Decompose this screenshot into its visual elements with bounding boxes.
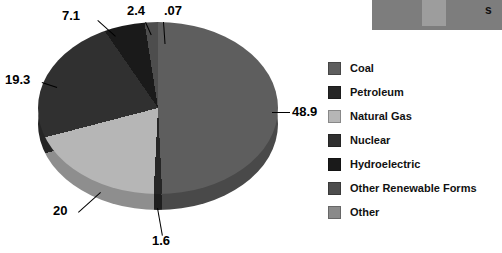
pie-surface (38, 22, 278, 194)
legend-swatch-icon (328, 62, 341, 75)
pie-graphic (38, 22, 278, 222)
legend-swatch-icon (328, 134, 341, 147)
legend-item-other-renewable-forms[interactable]: Other Renewable Forms (328, 176, 502, 200)
legend-swatch-icon (328, 182, 341, 195)
value-label-coal: 48.9 (292, 105, 317, 119)
value-label-petroleum: 1.6 (152, 234, 170, 248)
chart-legend: Coal Petroleum Natural Gas Nuclear Hydro… (328, 56, 502, 224)
legend-item-coal[interactable]: Coal (328, 56, 502, 80)
value-label-other-renewable: 2.4 (127, 4, 145, 18)
chart-page: s 48.9 1.6 20 19.3 7.1 2.4 .07 Coal Pet (0, 0, 502, 253)
legend-swatch-icon (328, 110, 341, 123)
value-label-nuclear: 19.3 (5, 73, 30, 87)
legend-item-label: Coal (350, 62, 374, 74)
value-label-other: .07 (164, 4, 182, 18)
legend-item-nuclear[interactable]: Nuclear (328, 128, 502, 152)
legend-item-label: Other Renewable Forms (350, 182, 477, 194)
legend-item-other[interactable]: Other (328, 200, 502, 224)
cropped-band-letter: s (485, 4, 492, 16)
legend-item-petroleum[interactable]: Petroleum (328, 80, 502, 104)
value-label-natural-gas: 20 (53, 204, 67, 218)
cropped-band-highlight (422, 0, 446, 26)
legend-item-natural-gas[interactable]: Natural Gas (328, 104, 502, 128)
legend-item-label: Petroleum (350, 86, 404, 98)
value-label-hydroelectric: 7.1 (62, 9, 80, 23)
pie-chart: 48.9 1.6 20 19.3 7.1 2.4 .07 (0, 0, 330, 253)
legend-item-label: Other (350, 206, 379, 218)
legend-swatch-icon (328, 86, 341, 99)
legend-item-hydroelectric[interactable]: Hydroelectric (328, 152, 502, 176)
legend-item-label: Nuclear (350, 134, 390, 146)
legend-item-label: Natural Gas (350, 110, 412, 122)
cropped-toolbar-band: s (372, 0, 502, 30)
legend-item-label: Hydroelectric (350, 158, 420, 170)
legend-swatch-icon (328, 206, 341, 219)
legend-swatch-icon (328, 158, 341, 171)
leader-line-coal (272, 112, 290, 113)
